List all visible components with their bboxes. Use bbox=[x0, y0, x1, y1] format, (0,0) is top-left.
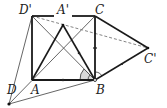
geometry-diagram: D' A' C C' D A B bbox=[0, 0, 167, 108]
line-A-A-prime bbox=[32, 25, 63, 80]
point-D bbox=[7, 102, 10, 105]
line-D-C bbox=[9, 16, 95, 104]
label-A-prime: A' bbox=[57, 4, 69, 16]
label-B: B bbox=[96, 84, 105, 96]
tick-mark-A-prime-B bbox=[78, 52, 81, 55]
line-C-C-prime bbox=[95, 16, 148, 48]
point-C-prime bbox=[147, 47, 150, 50]
label-D-prime: D' bbox=[19, 4, 32, 16]
line-D-B bbox=[9, 80, 95, 104]
label-A: A bbox=[31, 84, 40, 96]
tick-mark-AB bbox=[62, 79, 65, 82]
label-C-prime: C' bbox=[144, 53, 156, 65]
angle-marker-right bbox=[95, 72, 102, 76]
point-B bbox=[94, 79, 97, 82]
tick-mark-B-C-prime bbox=[121, 63, 123, 65]
point-A-prime bbox=[62, 24, 65, 27]
label-D: D bbox=[7, 84, 17, 96]
label-C: C bbox=[95, 4, 104, 16]
